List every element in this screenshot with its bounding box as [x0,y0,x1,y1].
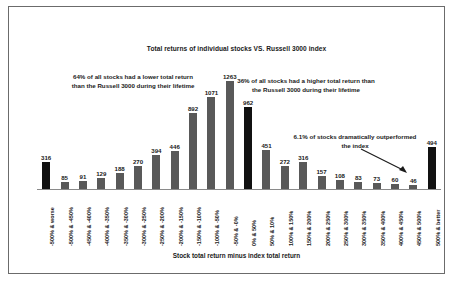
tick-slot: 350% & 400% [367,190,385,246]
tick-slot: 200% & 250% [312,190,330,246]
tick-slot: -350% & -300% [110,190,128,246]
tick-slot: -300% & -250% [129,190,147,246]
x-tick-label: -100% & -50% [214,190,220,246]
tick-slot: -400% & -350% [92,190,110,246]
tick-slot: 500% & better [423,190,441,246]
chart-frame: Total returns of individual stocks VS. R… [8,6,445,274]
tick-slot: -250% & -200% [147,190,165,246]
x-tick-label: -150% & -100% [196,190,202,246]
bar[interactable] [336,180,344,189]
x-tick-label: 350% & 400% [379,190,385,246]
bar-slot: 1071 [202,59,220,189]
x-tick-label: -500% & worse [49,190,55,246]
bar[interactable] [299,162,307,189]
bar-value-label: 316 [41,154,51,161]
bar-value-label: 1071 [205,89,219,96]
bar[interactable] [97,178,105,189]
bar[interactable] [134,166,142,189]
bar[interactable] [152,155,160,189]
bar[interactable] [244,107,252,189]
bar-slot: 494 [423,59,441,189]
bar[interactable] [262,150,270,189]
bar-value-label: 91 [80,173,87,180]
bar[interactable] [207,97,215,189]
bar-value-label: 129 [96,170,106,177]
bar[interactable] [318,176,326,189]
x-tick-label: -400% & -350% [104,190,110,246]
x-tick-label: 500% & better [434,190,440,246]
x-tick-label: -500% & -450% [67,190,73,246]
bar[interactable] [116,173,124,189]
tick-slot: 100% & 150% [276,190,294,246]
x-tick-label: -250% & -200% [159,190,165,246]
tick-slot: -200% & -150% [166,190,184,246]
arrow-icon [359,147,419,177]
tick-slot: 450% & 500% [404,190,422,246]
bar-value-label: 85 [61,174,68,181]
x-tick-label: -200% & -150% [177,190,183,246]
tick-slot: 0% & 50% [239,190,257,246]
bar-value-label: 446 [170,143,180,150]
x-tick-label: -450% & -400% [85,190,91,246]
tick-slot: -500% & worse [37,190,55,246]
bar[interactable] [171,151,179,189]
x-tick-label: 150% & 200% [306,190,312,246]
annotation-right: 36% of all stocks had a higher total ret… [237,77,375,94]
x-tick-label: 100% & 150% [287,190,293,246]
tick-slot: 50% & 10% [257,190,275,246]
bar-value-label: 46 [410,177,417,184]
tick-slot: 400% & 450% [386,190,404,246]
bar[interactable] [79,181,87,189]
tick-slot: -500% & -450% [55,190,73,246]
bar[interactable] [428,147,436,189]
tick-slot: -150% & -100% [184,190,202,246]
bar-value-label: 108 [335,172,345,179]
bar-value-label: 494 [427,139,437,146]
tick-slot: -100% & -50% [202,190,220,246]
bar-value-label: 157 [316,168,326,175]
bar-value-label: 892 [188,105,198,112]
x-tick-label: 200% & 250% [324,190,330,246]
x-tick-label: 0% & 50% [251,190,257,246]
bar[interactable] [61,182,69,189]
tick-slot: 150% & 200% [294,190,312,246]
tick-slot: 300% & 350% [349,190,367,246]
bar-value-label: 316 [298,154,308,161]
bar[interactable] [281,166,289,189]
tick-slot: 250% & 300% [331,190,349,246]
x-axis-title: Stock total return minus index total ret… [9,252,455,259]
chart-title: Total returns of individual stocks VS. R… [9,45,455,52]
x-tick-label: 450% & 500% [416,190,422,246]
x-tick-label: 400% & 450% [398,190,404,246]
bar-value-label: 188 [115,165,125,172]
bar[interactable] [189,113,197,189]
bar-value-label: 270 [133,158,143,165]
x-tick-label: 300% & 350% [361,190,367,246]
tick-slot: -450% & -400% [74,190,92,246]
x-tick-label: 50% & 10% [269,190,275,246]
tick-slot: -50% & -0% [221,190,239,246]
bar-value-label: 1263 [223,73,237,80]
bar[interactable] [226,81,234,189]
bar-value-label: 451 [261,142,271,149]
x-tick-label: 250% & 300% [343,190,349,246]
x-tick-label: -300% & -250% [141,190,147,246]
bar-slot: 316 [37,59,55,189]
bar[interactable] [42,162,50,189]
x-axis-tick-labels: -500% & worse-500% & -450%-450% & -400%-… [37,190,441,246]
bar[interactable] [354,182,362,189]
annotation-left: 64% of all stocks had a lower total retu… [67,73,199,90]
x-tick-label: -50% & -0% [232,190,238,246]
bar-value-label: 962 [243,99,253,106]
bar-value-label: 272 [280,158,290,165]
x-tick-label: -350% & -300% [122,190,128,246]
bar-value-label: 394 [151,147,161,154]
